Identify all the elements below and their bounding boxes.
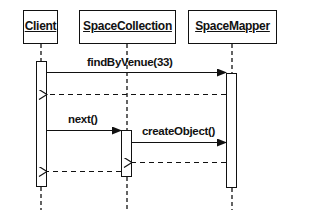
participant-label-client: Client (23, 19, 58, 33)
activation-spacecollection (122, 131, 132, 177)
participant-label-spacecollection: SpaceCollection (79, 19, 176, 33)
participant-label-spacemapper: SpaceMapper (188, 19, 277, 33)
activation-client (37, 62, 47, 187)
activation-spacemapper (227, 74, 237, 188)
message-label-next: next() (68, 113, 98, 125)
message-label-findbyvenue: findByVenue(33) (87, 56, 173, 68)
message-label-createobject: createObject() (142, 125, 215, 137)
